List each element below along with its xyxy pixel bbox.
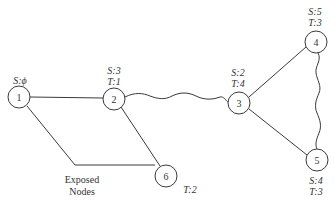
edge-4-5-wavy bbox=[316, 53, 321, 149]
node-2: 2 S:3 T:1 bbox=[103, 65, 125, 110]
edges bbox=[27, 47, 320, 166]
node-label: 2 bbox=[112, 94, 117, 105]
node-6: 6 T:2 bbox=[155, 165, 197, 195]
edge-3-5 bbox=[249, 109, 307, 155]
node-annotation-t: T:3 bbox=[309, 186, 322, 197]
node-label: 5 bbox=[315, 155, 320, 166]
node-annotation-t: T:4 bbox=[231, 78, 244, 89]
caption-line-2: Nodes bbox=[69, 186, 95, 197]
node-3: 3 S:2 T:4 bbox=[228, 67, 250, 114]
node-label: 3 bbox=[237, 98, 242, 109]
node-annotation-s: S:ϕ bbox=[13, 75, 27, 86]
node-1: 1 S:ϕ bbox=[8, 75, 30, 108]
node-annotation-t: T:1 bbox=[107, 76, 120, 87]
node-annotation-s: S:4 bbox=[309, 175, 322, 186]
node-label: 1 bbox=[17, 92, 22, 103]
edge-2-3-wavy bbox=[125, 93, 228, 102]
node-4: 4 S:5 T:3 bbox=[305, 6, 327, 53]
node-annotation-s: S:3 bbox=[107, 65, 120, 76]
edge-3-4 bbox=[249, 47, 306, 97]
edge-1-2 bbox=[30, 97, 103, 98]
node-annotation-s: S:5 bbox=[308, 6, 321, 17]
exposed-nodes-callout-line bbox=[27, 106, 155, 165]
node-label: 4 bbox=[314, 37, 319, 48]
node-5: 5 S:4 T:3 bbox=[306, 149, 328, 197]
graph-diagram: 1 S:ϕ 2 S:3 T:1 3 S:2 T:4 4 S:5 T:3 5 S:… bbox=[0, 0, 334, 205]
node-annotation-t: T:2 bbox=[183, 184, 196, 195]
edge-2-6 bbox=[121, 107, 160, 166]
node-annotation-t: T:3 bbox=[308, 17, 321, 28]
node-label: 6 bbox=[164, 171, 169, 182]
exposed-nodes-caption: Exposed Nodes bbox=[65, 174, 99, 197]
caption-line-1: Exposed bbox=[65, 174, 99, 185]
node-annotation-s: S:2 bbox=[231, 67, 244, 78]
